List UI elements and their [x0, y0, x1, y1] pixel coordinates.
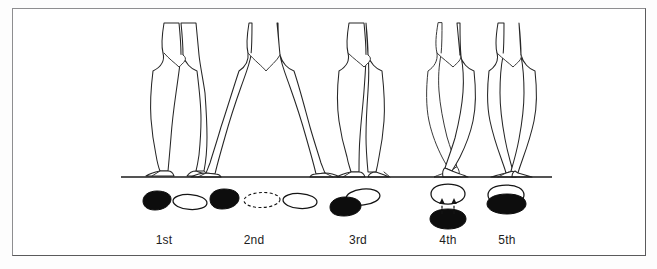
position-label-4th: 4th: [439, 233, 456, 247]
foot-dark-third: [330, 197, 361, 216]
foot-dashed-second: [244, 192, 281, 208]
footprints-first-position: [143, 191, 207, 211]
footprints-fifth-position: [487, 185, 526, 214]
foot-light-fourth: [431, 184, 465, 204]
position-label-3rd: 3rd: [349, 233, 367, 247]
footprints-fourth-position: [430, 184, 466, 229]
ballet-positions-illustration: [13, 9, 645, 255]
position-label-1st: 1st: [156, 233, 173, 247]
ballet-positions-figure: 1st 2nd 3rd 4th 5th: [0, 0, 657, 269]
foot-dark-fourth: [430, 209, 466, 229]
foot-dark-first: [143, 191, 171, 210]
legs-fourth-position: [427, 23, 476, 177]
figure-frame-border: 1st 2nd 3rd 4th 5th: [12, 8, 646, 256]
legs-first-position: [146, 23, 210, 176]
position-label-5th: 5th: [498, 233, 515, 247]
foot-dark-fifth: [487, 194, 526, 214]
footprints-second-position: [210, 189, 317, 210]
legs-third-position: [337, 23, 390, 177]
legs-second-position: [191, 23, 340, 177]
footprints-third-position: [330, 187, 381, 216]
foot-light-first: [173, 193, 208, 210]
foot-light-second: [283, 192, 318, 209]
position-label-2nd: 2nd: [244, 233, 265, 247]
foot-dark-second: [210, 189, 239, 209]
legs-fifth-position: [488, 23, 537, 177]
